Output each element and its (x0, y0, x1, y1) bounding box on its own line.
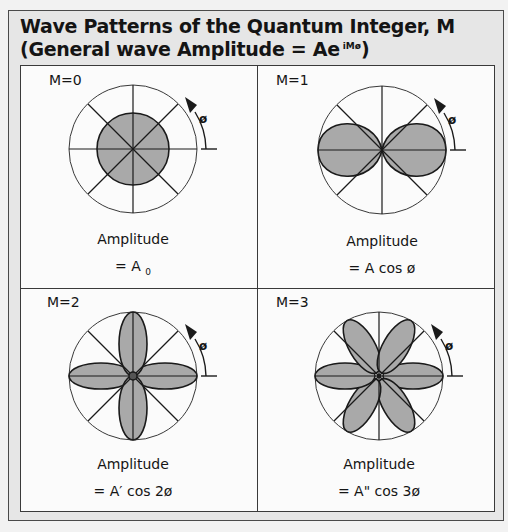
exponent: iMø (343, 41, 361, 51)
amplitude-formula: = A cos ø (302, 260, 462, 276)
figure-title: Wave Patterns of the Quantum Integer, M … (20, 16, 455, 59)
amplitude-formula: = A′ cos 2ø (53, 483, 213, 499)
panel-m0: M=0 ø Amplitude = A 0 (21, 66, 257, 288)
panel-m1: M=1 ø (258, 66, 495, 288)
axis-lines (318, 86, 446, 214)
amplitude-label: Amplitude (53, 456, 213, 472)
polar-diagram-m1 (258, 66, 495, 288)
angle-label: ø (199, 112, 207, 126)
title-line-2: (General wave Amplitude = AeiMø) (20, 38, 369, 60)
center-node (377, 374, 382, 379)
polar-diagram-m3 (258, 289, 495, 511)
angle-label: ø (445, 339, 453, 353)
angle-label: ø (199, 339, 207, 353)
panel-m3: M=3 (258, 289, 495, 511)
panel-m2: M=2 (21, 289, 257, 511)
title-line-1: Wave Patterns of the Quantum Integer, M (20, 15, 455, 37)
amplitude-formula: = A" cos 3ø (299, 483, 459, 499)
panel-grid: M=0 ø Amplitude = A 0 (20, 65, 495, 512)
amplitude-label: Amplitude (53, 231, 213, 247)
polar-diagram-m2 (21, 289, 257, 511)
axis-lines (69, 85, 197, 213)
angle-label: ø (448, 113, 456, 127)
amplitude-label: Amplitude (302, 233, 462, 249)
amplitude-formula: = A 0 (53, 258, 213, 277)
polar-diagram-m0 (21, 66, 257, 288)
amplitude-label: Amplitude (299, 456, 459, 472)
center-node (129, 372, 137, 380)
